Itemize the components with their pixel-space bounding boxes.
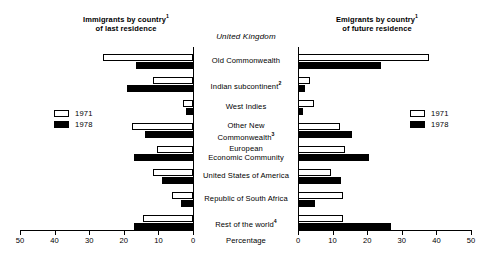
bar-right-y1971 <box>298 192 343 199</box>
legend-item-1971[interactable]: 1971 <box>410 108 449 119</box>
bar-right-y1971 <box>298 123 340 130</box>
tick-mark <box>333 231 334 235</box>
category-footnote-marker: 2 <box>278 80 281 86</box>
chart-row: Indian subcontinent2 <box>0 75 493 98</box>
category-footnote-marker: 4 <box>274 218 277 224</box>
left-panel-title-line2: of last residence <box>96 24 157 33</box>
legend-swatch-1971 <box>54 110 69 117</box>
legend-label-1978: 1978 <box>75 120 93 129</box>
bar-right-y1971 <box>298 169 331 176</box>
bar-right-y1978 <box>298 154 369 161</box>
legend-label-1971: 1971 <box>431 109 449 118</box>
tick-mark <box>367 231 368 235</box>
tick-label-right-20: 20 <box>355 236 379 245</box>
tick-label-right-10: 10 <box>321 236 345 245</box>
legend-item-1971[interactable]: 1971 <box>54 108 93 119</box>
tick-label-left-50: 50 <box>8 236 32 245</box>
category-footnote-marker: 3 <box>271 131 274 137</box>
bar-right-y1971 <box>298 54 429 61</box>
axis-unit-label: Percentage <box>218 236 274 245</box>
left-axis-baseline <box>20 230 194 231</box>
tick-mark <box>89 231 90 235</box>
category-label: Republic of South Africa <box>196 194 296 203</box>
legend-swatch-1971 <box>410 110 425 117</box>
country-title: United Kingdom <box>193 32 299 41</box>
tick-label-left-20: 20 <box>112 236 136 245</box>
legend-right: 19711978 <box>410 108 449 130</box>
bar-right-y1978 <box>298 131 352 138</box>
bar-left-y1971 <box>132 123 193 130</box>
legend-item-1978[interactable]: 1978 <box>54 119 93 130</box>
bar-right-y1978 <box>298 108 303 115</box>
category-label: EuropeanEconomic Community <box>196 144 296 162</box>
chart-row: Rest of the world4 <box>0 213 493 236</box>
bar-left-y1978 <box>162 177 193 184</box>
tick-label-right-30: 30 <box>390 236 414 245</box>
right-axis-baseline <box>298 230 472 231</box>
left-panel-title-line1: Immigrants by country <box>83 15 166 24</box>
bar-right-y1978 <box>298 200 315 207</box>
bar-left-y1978 <box>145 131 193 138</box>
bar-right-y1971 <box>298 146 345 153</box>
legend-swatch-1978 <box>410 121 425 128</box>
tick-label-right-40: 40 <box>424 236 448 245</box>
category-label: Old Commonwealth <box>196 56 296 65</box>
butterfly-chart: Immigrants by country1of last residence … <box>0 0 493 262</box>
tick-mark <box>193 231 194 235</box>
left-panel-title: Immigrants by country1of last residence <box>58 12 194 34</box>
tick-label-right-0: 0 <box>286 236 310 245</box>
right-panel-title-footnote-marker: 1 <box>415 13 418 19</box>
legend-swatch-1978 <box>54 121 69 128</box>
chart-row: EuropeanEconomic Community <box>0 144 493 167</box>
tick-mark <box>471 231 472 235</box>
category-label: Rest of the world4 <box>196 217 296 229</box>
bar-right-y1978 <box>298 62 381 69</box>
tick-label-left-10: 10 <box>146 236 170 245</box>
bar-right-y1971 <box>298 100 314 107</box>
tick-mark <box>298 231 299 235</box>
bar-left-y1978 <box>186 108 193 115</box>
tick-label-right-50: 50 <box>459 236 483 245</box>
legend-label-1971: 1971 <box>75 109 93 118</box>
bar-left-y1971 <box>153 77 193 84</box>
chart-row: Republic of South Africa <box>0 190 493 213</box>
chart-row: Old Commonwealth <box>0 52 493 75</box>
bar-left-y1978 <box>127 85 193 92</box>
bar-left-y1971 <box>103 54 193 61</box>
right-panel-title-line1: Emigrants by country <box>336 15 415 24</box>
category-label: Indian subcontinent2 <box>196 79 296 91</box>
tick-mark <box>402 231 403 235</box>
bar-right-y1971 <box>298 77 310 84</box>
category-label: Other NewCommonwealth3 <box>196 121 296 142</box>
bar-right-y1978 <box>298 223 391 230</box>
bar-left-y1971 <box>153 169 193 176</box>
tick-mark <box>158 231 159 235</box>
bar-right-y1978 <box>298 177 341 184</box>
bar-left-y1978 <box>136 62 193 69</box>
bar-left-y1978 <box>134 223 193 230</box>
legend-left: 19711978 <box>54 108 93 130</box>
category-label: West Indies <box>196 102 296 111</box>
bar-left-y1971 <box>183 100 193 107</box>
bar-left-y1978 <box>181 200 193 207</box>
tick-label-left-0: 0 <box>181 236 205 245</box>
tick-mark <box>55 231 56 235</box>
tick-mark <box>436 231 437 235</box>
bar-right-y1971 <box>298 215 343 222</box>
tick-mark <box>124 231 125 235</box>
right-panel-title-line2: of future residence <box>342 24 411 33</box>
tick-label-left-40: 40 <box>43 236 67 245</box>
tick-label-left-30: 30 <box>77 236 101 245</box>
tick-mark <box>20 231 21 235</box>
bar-left-y1978 <box>134 154 193 161</box>
category-label: United States of America <box>196 171 296 180</box>
bar-right-y1978 <box>298 85 305 92</box>
legend-label-1978: 1978 <box>431 120 449 129</box>
right-panel-title: Emigrants by country1of future residence <box>302 12 452 34</box>
bar-left-y1971 <box>143 215 193 222</box>
legend-item-1978[interactable]: 1978 <box>410 119 449 130</box>
left-panel-title-footnote-marker: 1 <box>166 13 169 19</box>
chart-row: United States of America <box>0 167 493 190</box>
bar-left-y1971 <box>157 146 193 153</box>
bar-left-y1971 <box>172 192 193 199</box>
